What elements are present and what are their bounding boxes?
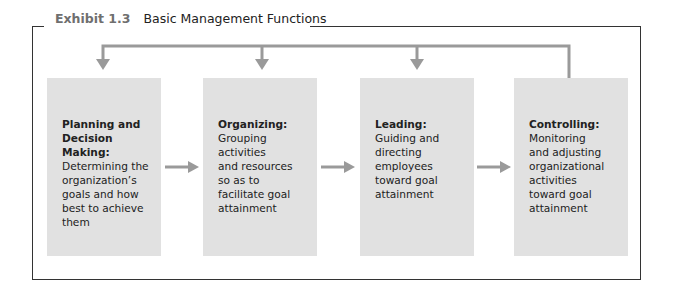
function-title: Planning and — [62, 117, 161, 131]
function-desc-line: Guiding and — [375, 131, 474, 145]
function-desc-line: Monitoring — [529, 131, 628, 145]
function-desc-line: employees — [375, 159, 474, 173]
function-box-controlling: Controlling: Monitoring and adjusting or… — [514, 78, 628, 256]
function-desc-line: toward goal — [375, 173, 474, 187]
function-desc-line: attainment — [218, 201, 317, 215]
function-desc-line: organization’s — [62, 173, 161, 187]
feedback-loop-line — [103, 46, 569, 78]
function-desc-line: so as to — [218, 173, 317, 187]
function-title: Organizing: — [218, 117, 317, 131]
function-desc-line: Grouping — [218, 131, 317, 145]
right-arrow-icon — [188, 161, 199, 173]
function-title: Leading: — [375, 117, 474, 131]
function-title: Decision Making: — [62, 131, 161, 159]
function-desc-line: Determining the — [62, 159, 161, 173]
function-desc-line: attainment — [375, 187, 474, 201]
function-box-planning: Planning and Decision Making: Determinin… — [47, 78, 161, 256]
function-desc-line: toward goal — [529, 187, 628, 201]
down-arrow-icon — [96, 59, 110, 70]
function-title: Controlling: — [529, 117, 628, 131]
function-desc-line: directing — [375, 145, 474, 159]
function-desc-line: goals and how — [62, 187, 161, 201]
function-desc-line: facilitate goal — [218, 187, 317, 201]
function-box-organizing: Organizing: Grouping activities and reso… — [203, 78, 317, 256]
function-desc-line: them — [62, 215, 161, 229]
function-desc-line: best to achieve — [62, 201, 161, 215]
function-desc-line: and adjusting — [529, 145, 628, 159]
down-arrow-icon — [255, 59, 269, 70]
function-desc-line: activities — [218, 145, 317, 159]
down-arrow-icon — [410, 59, 424, 70]
function-desc-line: attainment — [529, 201, 628, 215]
function-desc-line: and resources — [218, 159, 317, 173]
right-arrow-icon — [344, 161, 355, 173]
right-arrow-icon — [500, 161, 511, 173]
function-box-leading: Leading: Guiding and directing employees… — [360, 78, 474, 256]
function-desc-line: organizational — [529, 159, 628, 173]
function-desc-line: activities — [529, 173, 628, 187]
